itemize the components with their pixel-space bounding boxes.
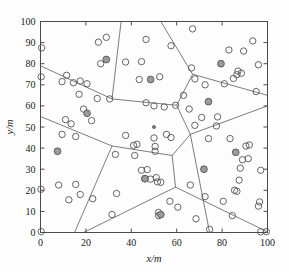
sensor-node-marker <box>72 181 78 187</box>
y-tick-label: 20 <box>26 185 36 196</box>
figure-container: 0204060801000102030405060708090100 x/m y… <box>0 0 289 272</box>
x-tick-label: 20 <box>81 237 91 248</box>
tick-labels-layer: 0204060801000102030405060708090100 <box>21 16 276 248</box>
sensor-node-marker <box>88 117 94 123</box>
sensor-node-marker <box>220 198 226 204</box>
y-tick-label: 70 <box>26 79 36 90</box>
sensor-node-marker <box>163 131 169 137</box>
sensor-node-marker <box>250 38 256 44</box>
sensor-node-marker <box>192 122 198 128</box>
sensor-node-marker <box>156 74 162 80</box>
x-axis-title: x/m <box>145 253 162 264</box>
cluster-head-marker <box>157 211 164 218</box>
sensor-node-marker <box>161 104 167 110</box>
sensor-node-marker <box>138 58 144 64</box>
sensor-node-marker <box>143 36 149 42</box>
voronoi-edge <box>84 187 176 232</box>
sensor-node-marker <box>109 211 115 217</box>
sensor-node-marker <box>237 165 243 171</box>
sensor-node-marker <box>205 135 211 141</box>
sensor-node-marker <box>198 114 204 120</box>
y-tick-label: 80 <box>26 58 36 69</box>
sensor-node-marker <box>256 199 262 205</box>
sensor-node-marker <box>59 78 65 84</box>
sensor-node-marker <box>68 121 74 127</box>
sensor-node-marker <box>234 71 240 77</box>
sensor-node-marker <box>122 59 128 65</box>
x-tick-label: 60 <box>172 237 182 248</box>
cluster-head-marker <box>205 98 212 105</box>
x-tick-label: 0 <box>38 237 43 248</box>
y-axis-title: y/m <box>4 119 15 136</box>
voronoi-edge <box>161 22 193 106</box>
sensor-node-marker <box>136 76 142 82</box>
sensor-node-marker <box>151 103 157 109</box>
sensor-node-marker <box>77 78 83 84</box>
sensor-node-marker <box>226 47 232 53</box>
sensor-node-marker <box>151 135 157 141</box>
sensor-node-marker <box>168 43 174 49</box>
sensor-node-marker <box>97 61 103 67</box>
x-tick-label: 80 <box>217 237 227 248</box>
sensor-node-marker <box>38 74 44 80</box>
voronoi-edge <box>177 105 268 134</box>
data-points-layer <box>38 26 270 235</box>
sensor-node-marker <box>70 79 76 85</box>
sensor-node-marker <box>257 167 263 173</box>
voronoi-edge <box>172 155 267 231</box>
voronoi-edge <box>75 146 112 233</box>
voronoi-edge <box>112 22 121 99</box>
voronoi-edge <box>41 66 177 105</box>
cluster-head-marker <box>201 166 208 173</box>
sensor-node-marker <box>187 182 193 188</box>
sensor-node-marker <box>180 92 186 98</box>
cluster-head-marker <box>218 60 225 67</box>
sensor-node-marker <box>236 177 242 183</box>
sensor-node-marker <box>192 76 198 82</box>
cluster-head-marker <box>84 110 91 117</box>
y-tick-label: 50 <box>26 122 36 133</box>
sensor-node-marker <box>59 131 65 137</box>
sensor-node-marker <box>76 91 82 97</box>
sensor-node-marker <box>167 198 173 204</box>
sensor-node-marker <box>84 81 90 87</box>
y-tick-label: 0 <box>31 227 36 238</box>
y-tick-label: 100 <box>21 16 36 27</box>
cluster-head-marker <box>147 76 154 83</box>
y-tick-label: 90 <box>26 37 36 48</box>
cluster-head-marker <box>54 148 61 155</box>
sensor-node-marker <box>55 182 61 188</box>
cluster-head-marker <box>103 56 110 63</box>
sensor-node-marker <box>186 106 192 112</box>
y-tick-label: 10 <box>26 206 36 217</box>
y-tick-label: 30 <box>26 164 36 175</box>
sensor-node-marker <box>255 203 261 209</box>
sensor-node-marker <box>122 132 128 138</box>
sensor-node-marker <box>227 135 233 141</box>
sensor-node-marker <box>77 191 83 197</box>
sensor-node-marker <box>103 34 109 40</box>
cluster-head-marker <box>142 175 149 182</box>
sensor-node-marker <box>255 62 261 68</box>
sensor-node-marker <box>38 228 44 234</box>
sensor-node-marker <box>113 190 119 196</box>
sensor-node-marker <box>72 133 78 139</box>
sensor-node-marker <box>90 196 96 202</box>
sensor-node-marker <box>62 116 68 122</box>
cluster-head-marker <box>232 149 239 156</box>
scatter-plot: 0204060801000102030405060708090100 x/m y… <box>0 0 289 272</box>
sensor-node-marker <box>112 151 118 157</box>
sensor-node-marker <box>175 204 181 210</box>
sensor-node-marker <box>132 152 138 158</box>
y-tick-label: 40 <box>26 143 36 154</box>
y-tick-label: 60 <box>26 100 36 111</box>
sensor-node-marker <box>152 148 158 154</box>
sensor-node-marker <box>202 82 208 88</box>
sensor-node-marker <box>214 114 220 120</box>
sensor-node-marker <box>230 75 236 81</box>
sink-marker <box>152 125 155 128</box>
sensor-node-marker <box>240 48 246 54</box>
sensor-node-marker <box>38 45 44 51</box>
sensor-node-marker <box>193 216 199 222</box>
sensor-node-marker <box>94 95 100 101</box>
